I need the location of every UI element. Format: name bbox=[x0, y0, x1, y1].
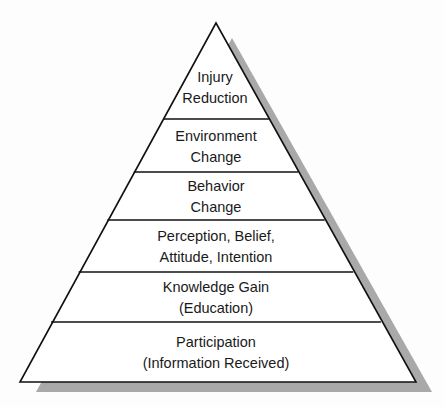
tier-label: Environment bbox=[175, 128, 256, 144]
tier-label: Attitude, Intention bbox=[160, 249, 273, 265]
tier-label: (Information Received) bbox=[143, 355, 290, 371]
tier-label: Participation bbox=[176, 334, 256, 350]
tier-label: Knowledge Gain bbox=[163, 279, 269, 295]
tier-label: (Education) bbox=[179, 300, 253, 316]
tier-label: Injury bbox=[197, 69, 233, 85]
tier-label: Reduction bbox=[182, 90, 247, 106]
tier-label: Change bbox=[191, 199, 242, 215]
tier-label: Perception, Belief, bbox=[157, 228, 275, 244]
pyramid-svg: InjuryReductionEnvironmentChangeBehavior… bbox=[0, 0, 444, 407]
tier-label: Behavior bbox=[187, 178, 244, 194]
tier-label: Change bbox=[191, 149, 242, 165]
pyramid-diagram: InjuryReductionEnvironmentChangeBehavior… bbox=[0, 0, 444, 407]
